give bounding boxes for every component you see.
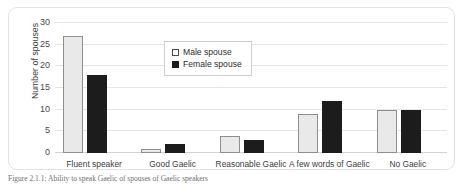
- x-axis-category-label: No Gaelic: [389, 159, 426, 169]
- bar-group: Fluent speaker: [55, 23, 133, 153]
- x-axis-category-label: Good Gaelic: [149, 159, 196, 169]
- bar-male: [63, 36, 83, 153]
- x-axis-category-label: A few words of Gaelic: [289, 159, 370, 169]
- bar-group: No Gaelic: [369, 23, 447, 153]
- bar-male: [141, 149, 161, 153]
- y-axis-tick-label: 25: [40, 39, 50, 49]
- bar-female: [401, 110, 421, 153]
- bar-group: A few words of Gaelic: [290, 23, 368, 153]
- chart-legend: Male spouse Female spouse: [164, 41, 252, 76]
- filled-square-swatch-icon: [172, 61, 179, 68]
- legend-label-female: Female spouse: [183, 59, 242, 69]
- y-axis-tick-label: 10: [40, 104, 50, 114]
- y-axis-tick-label: 30: [40, 17, 50, 27]
- y-axis-tick-label: 5: [45, 125, 50, 135]
- bar-female: [165, 144, 185, 153]
- y-axis-tick-label: 15: [40, 82, 50, 92]
- x-axis-category-label: Reasonable Gaelic: [216, 159, 287, 169]
- bar-male: [220, 136, 240, 153]
- legend-item-male: Male spouse: [172, 46, 242, 58]
- chart-card: Number of spouses 051015202530 Fluent sp…: [8, 7, 455, 170]
- x-axis-category-label: Fluent speaker: [66, 159, 121, 169]
- y-axis-tick-label: 0: [45, 147, 50, 157]
- bar-female: [244, 140, 264, 153]
- bar-female: [87, 75, 107, 153]
- bar-female: [322, 101, 342, 153]
- legend-label-male: Male spouse: [183, 47, 232, 57]
- figure-caption: Figure 2.1.1: Ability to speak Gaelic of…: [8, 174, 458, 183]
- bar-male: [298, 114, 318, 153]
- chart-screenshot: Number of spouses 051015202530 Fluent sp…: [0, 0, 465, 184]
- open-square-swatch-icon: [172, 49, 179, 56]
- legend-item-female: Female spouse: [172, 58, 242, 70]
- y-axis-title: Number of spouses: [30, 1, 40, 121]
- bar-male: [377, 110, 397, 153]
- y-axis-tick-label: 20: [40, 60, 50, 70]
